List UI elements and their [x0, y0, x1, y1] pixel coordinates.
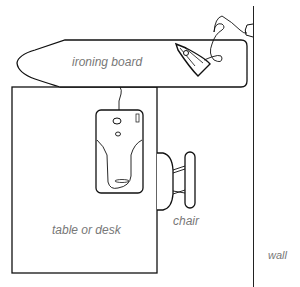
table-label: table or desk: [52, 223, 121, 237]
chair-label: chair: [173, 214, 199, 228]
outlet-icon: [245, 24, 253, 37]
ironing-board-label: ironing board: [72, 55, 142, 69]
diagram-drawing: [0, 0, 300, 287]
chair-icon: [157, 152, 195, 210]
wall-label: wall: [268, 249, 287, 261]
workspace-layout-diagram: ironing board table or desk chair wall: [0, 0, 300, 287]
